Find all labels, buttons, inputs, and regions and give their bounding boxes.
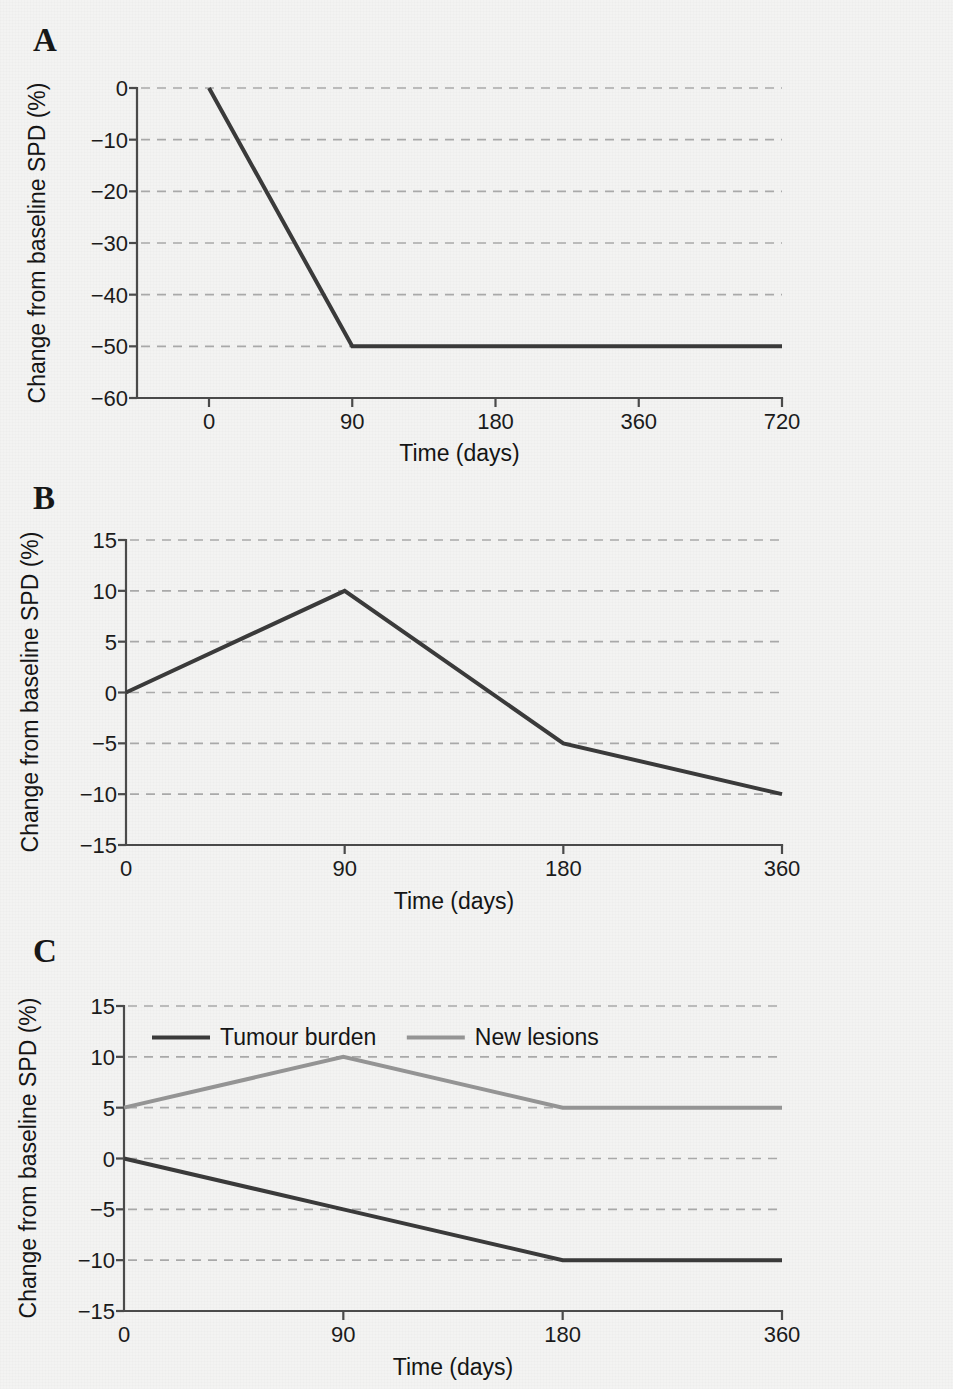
y-axis-title: Change from baseline SPD (%) bbox=[24, 83, 50, 404]
y-tick-label: 0 bbox=[103, 1147, 115, 1172]
y-tick-label: 5 bbox=[105, 630, 117, 655]
series-line-2 bbox=[124, 1057, 782, 1108]
panel-a-chart: 0−10−20−30−40−50−60090180360720Time (day… bbox=[0, 0, 953, 468]
x-tick-label: 360 bbox=[764, 856, 801, 881]
y-tick-label: 10 bbox=[93, 579, 117, 604]
x-tick-label: 90 bbox=[332, 856, 356, 881]
x-tick-label: 720 bbox=[764, 409, 801, 434]
x-tick-label: 360 bbox=[764, 1322, 801, 1347]
x-axis-title: Time (days) bbox=[399, 440, 520, 466]
panel-c: C 151050−5−10−15090180360Time (days)Chan… bbox=[0, 923, 953, 1389]
y-tick-label: −10 bbox=[80, 782, 117, 807]
panel-c-chart: 151050−5−10−15090180360Time (days)Change… bbox=[0, 923, 953, 1389]
x-tick-label: 360 bbox=[620, 409, 657, 434]
x-tick-label: 0 bbox=[203, 409, 215, 434]
x-tick-label: 0 bbox=[118, 1322, 130, 1347]
x-axis-title: Time (days) bbox=[394, 888, 515, 914]
y-tick-label: −10 bbox=[91, 128, 128, 153]
panel-a: A 0−10−20−30−40−50−60090180360720Time (d… bbox=[0, 0, 953, 468]
y-tick-label: −30 bbox=[91, 231, 128, 256]
figure-sheet: A 0−10−20−30−40−50−60090180360720Time (d… bbox=[0, 0, 953, 1389]
y-tick-label: −15 bbox=[78, 1299, 115, 1324]
y-tick-label: 5 bbox=[103, 1096, 115, 1121]
y-tick-label: −5 bbox=[92, 731, 117, 756]
y-tick-label: −5 bbox=[90, 1197, 115, 1222]
panel-b: B 151050−5−10−15090180360Time (days)Chan… bbox=[0, 468, 953, 923]
x-tick-label: 90 bbox=[331, 1322, 355, 1347]
y-tick-label: 0 bbox=[116, 76, 128, 101]
y-tick-label: 10 bbox=[91, 1045, 115, 1070]
x-tick-label: 180 bbox=[545, 856, 582, 881]
x-tick-label: 180 bbox=[544, 1322, 581, 1347]
x-axis-title: Time (days) bbox=[393, 1354, 514, 1380]
series-line-1 bbox=[209, 88, 782, 346]
y-tick-label: −50 bbox=[91, 334, 128, 359]
y-tick-label: −10 bbox=[78, 1248, 115, 1273]
x-tick-label: 180 bbox=[477, 409, 514, 434]
y-axis-title: Change from baseline SPD (%) bbox=[15, 998, 41, 1319]
y-tick-label: 15 bbox=[91, 994, 115, 1019]
y-tick-label: −20 bbox=[91, 179, 128, 204]
y-tick-label: −40 bbox=[91, 283, 128, 308]
y-tick-label: 0 bbox=[105, 681, 117, 706]
x-tick-label: 90 bbox=[340, 409, 364, 434]
y-tick-label: −60 bbox=[91, 386, 128, 411]
y-axis-title: Change from baseline SPD (%) bbox=[17, 532, 43, 853]
y-tick-label: −15 bbox=[80, 833, 117, 858]
x-tick-label: 0 bbox=[120, 856, 132, 881]
legend-label-2: New lesions bbox=[475, 1024, 599, 1050]
legend-label-1: Tumour burden bbox=[220, 1024, 376, 1050]
panel-b-chart: 151050−5−10−15090180360Time (days)Change… bbox=[0, 468, 953, 923]
y-tick-label: 15 bbox=[93, 528, 117, 553]
